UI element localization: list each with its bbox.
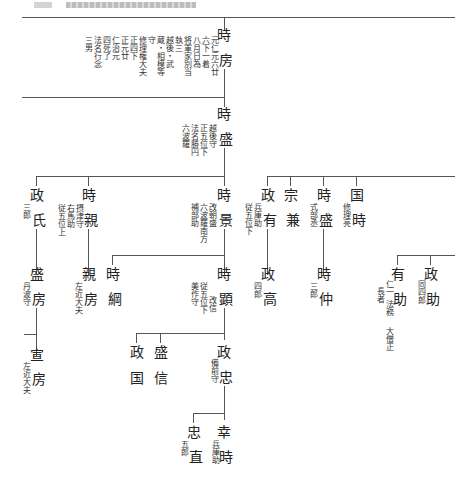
note: 長者 bbox=[375, 287, 384, 307]
note: 六波羅 bbox=[180, 124, 189, 154]
person-masatada-top: 政 bbox=[216, 345, 232, 359]
person-tokichika-top: 時 bbox=[81, 188, 97, 202]
person-masaari-bottom: 有 bbox=[262, 213, 278, 227]
person-morinobu-bottom: 信 bbox=[153, 371, 169, 385]
note: 補部助 bbox=[189, 203, 198, 233]
note: 従五位下 bbox=[198, 282, 207, 322]
person-tokinaka-top: 時 bbox=[316, 267, 332, 281]
person-masakuni-top: 政 bbox=[129, 345, 145, 359]
person-tadanao-bottom: 直 bbox=[188, 450, 204, 464]
person-tokikage-top: 時 bbox=[216, 188, 232, 202]
note: 従五位上 bbox=[56, 204, 65, 244]
note: 左近大夫 bbox=[73, 282, 82, 322]
person-masaari-top: 政 bbox=[260, 188, 276, 202]
note: 仁治元 bbox=[110, 36, 119, 66]
person-masataka-top: 政 bbox=[260, 267, 276, 281]
person-tokifusa-bottom: 房 bbox=[218, 53, 234, 67]
note: 従五位下 bbox=[243, 203, 252, 243]
note: 丹波守 bbox=[21, 282, 30, 312]
note: 八月日為 bbox=[191, 36, 200, 86]
note: 右馬助 bbox=[65, 204, 74, 234]
person-kunitoki-top: 国 bbox=[349, 188, 365, 202]
note: 元仁元六廿 bbox=[209, 36, 218, 86]
person-morifusa-bottom: 房 bbox=[31, 292, 47, 306]
person-morifusa-top: 盛 bbox=[29, 267, 45, 281]
connector bbox=[136, 333, 137, 343]
note: 改信 bbox=[207, 296, 216, 316]
connector bbox=[430, 255, 431, 265]
person-yukitoki-top: 幸 bbox=[216, 425, 232, 439]
connector bbox=[88, 176, 89, 186]
note: 大僧正 bbox=[384, 327, 393, 357]
note: 仁一 bbox=[384, 280, 393, 300]
connector bbox=[136, 333, 225, 334]
running-header bbox=[66, 2, 196, 8]
connector bbox=[224, 308, 225, 340]
note: 修理権大夫 bbox=[137, 36, 146, 86]
connector bbox=[22, 97, 225, 98]
note: 法務 bbox=[384, 300, 393, 320]
connector bbox=[224, 176, 225, 186]
person-kunitoki-bottom: 時 bbox=[351, 213, 367, 227]
person-tokinaka-bottom: 仲 bbox=[318, 292, 334, 306]
person-masauji-bottom: 氏 bbox=[31, 213, 47, 227]
person-chikafusa-bottom: 房 bbox=[83, 292, 99, 306]
connector bbox=[112, 255, 225, 256]
note: 三郎 bbox=[308, 282, 317, 302]
note: 法名行念 bbox=[92, 36, 101, 76]
person-morinobu-top: 盛 bbox=[153, 345, 169, 359]
note: 式部丞 bbox=[308, 203, 317, 233]
connector bbox=[36, 176, 37, 186]
note: 改朝盛 bbox=[207, 203, 216, 233]
note: 正四下 bbox=[128, 36, 137, 76]
person-nobufusa-bottom: 房 bbox=[31, 372, 47, 386]
note: 越後守 bbox=[207, 124, 216, 154]
note: 六波羅南方 bbox=[198, 203, 207, 253]
person-arisuke-bottom: 助 bbox=[392, 292, 408, 306]
connector bbox=[224, 69, 225, 97]
note: 四郎 bbox=[252, 282, 261, 302]
note: 法名勝円 bbox=[189, 124, 198, 164]
person-munekane-top: 宗 bbox=[283, 188, 299, 202]
connector bbox=[24, 334, 37, 335]
person-tokitsuna-bottom: 綱 bbox=[107, 292, 123, 306]
person-tadanao-top: 忠 bbox=[186, 425, 202, 439]
connector bbox=[397, 255, 455, 256]
note: 三男 bbox=[83, 36, 92, 56]
note: 正元廿 bbox=[119, 36, 128, 86]
note: 蔵・相模等 bbox=[155, 36, 164, 86]
header-marker bbox=[34, 2, 52, 8]
person-masataka-bottom: 高 bbox=[262, 292, 278, 306]
person-yukitoki-bottom: 時 bbox=[218, 450, 234, 464]
connector bbox=[323, 176, 324, 186]
person-tokimori-bottom: 盛 bbox=[218, 132, 234, 146]
person-tokikage-bottom: 景 bbox=[218, 213, 234, 227]
note: 四死了 bbox=[101, 36, 110, 66]
note: 美作守 bbox=[189, 282, 198, 312]
connector bbox=[224, 386, 225, 420]
connector bbox=[267, 176, 268, 186]
connector bbox=[267, 176, 455, 177]
person-tokimori2-top: 時 bbox=[316, 188, 332, 202]
person-masasuke-top: 政 bbox=[423, 267, 439, 281]
note: 三郎 bbox=[21, 203, 30, 223]
note: 正五位下 bbox=[198, 124, 207, 164]
person-tokifusa-top: 時 bbox=[216, 28, 232, 42]
connector bbox=[22, 17, 455, 18]
person-masasuke-bottom: 助 bbox=[425, 292, 441, 306]
connector bbox=[112, 255, 113, 265]
note: 六下一着 bbox=[200, 36, 209, 86]
note: 修理亮 bbox=[341, 203, 350, 233]
note: 越後・武 bbox=[164, 36, 173, 86]
connector bbox=[224, 148, 225, 176]
note: 守 bbox=[146, 36, 155, 46]
note: 執三 bbox=[173, 36, 182, 66]
connector bbox=[356, 176, 357, 186]
note: 兵庫助 bbox=[210, 440, 219, 470]
person-nobufusa-top: 宣 bbox=[29, 348, 45, 362]
note: 同四郎 bbox=[416, 280, 425, 310]
connector bbox=[290, 176, 291, 186]
note: 摂津守 bbox=[74, 204, 83, 234]
note: 兵庫助 bbox=[252, 203, 261, 233]
person-arisuke-top: 有 bbox=[390, 267, 406, 281]
